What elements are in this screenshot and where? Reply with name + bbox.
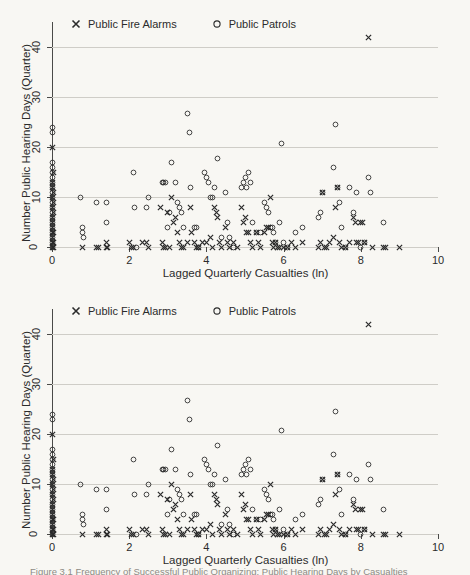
data-point-patrol [342, 531, 349, 538]
data-point-patrol [184, 110, 191, 117]
data-point-patrol [270, 229, 277, 236]
x-axis-title: Lagged Quarterly Casualties (ln) [52, 554, 439, 566]
data-point-fire-alarm [145, 531, 152, 538]
cross-marker-icon [70, 18, 82, 30]
data-point-patrol [222, 476, 229, 483]
data-point-patrol [292, 229, 299, 236]
data-point-patrol [276, 506, 283, 513]
x-axis-title: Lagged Quarterly Casualties (ln) [52, 267, 439, 279]
data-point-patrol [278, 140, 285, 147]
data-point-patrol [80, 521, 87, 528]
data-point-patrol [317, 496, 324, 503]
data-point-fire-alarm [396, 244, 403, 251]
x-axis-tick-label: 10 [432, 541, 444, 553]
data-point-fire-alarm [95, 244, 102, 251]
legend-label-patrols: Public Patrols [229, 305, 296, 317]
data-point-patrol [338, 224, 345, 231]
data-point-patrol [257, 516, 264, 523]
data-point-patrol [180, 511, 187, 518]
data-point-patrol [211, 184, 218, 191]
data-point-patrol [249, 219, 256, 226]
data-point-fire-alarm [187, 491, 194, 498]
data-point-patrol [247, 466, 254, 473]
data-point-patrol [380, 506, 387, 513]
x-axis-tick-label: 8 [358, 541, 364, 553]
data-point-patrol [166, 209, 173, 216]
x-axis-tick [438, 534, 439, 539]
y-axis-tick-label: 30 [30, 91, 42, 103]
data-point-patrol [278, 427, 285, 434]
data-point-patrol [284, 531, 291, 538]
x-axis-tick-label: 4 [203, 254, 209, 266]
x-axis-tick-label: 0 [49, 254, 55, 266]
data-point-patrol [365, 174, 372, 181]
data-point-patrol [209, 481, 216, 488]
data-point-patrol [292, 516, 299, 523]
gridline-y [52, 334, 438, 335]
data-point-patrol [330, 164, 337, 171]
data-point-patrol [299, 511, 306, 518]
data-point-fire-alarm [238, 204, 245, 211]
data-point-patrol [133, 244, 140, 251]
data-point-fire-alarm [79, 244, 86, 251]
data-point-patrol [334, 471, 341, 478]
data-point-fire-alarm [257, 531, 264, 538]
data-point-fire-alarm [157, 204, 164, 211]
data-point-patrol [187, 471, 194, 478]
circle-marker-icon [211, 305, 223, 317]
data-point-patrol [168, 159, 175, 166]
data-point-patrol [334, 184, 341, 191]
data-point-patrol [332, 408, 339, 415]
data-point-patrol [299, 224, 306, 231]
data-point-patrol [49, 129, 56, 136]
data-point-patrol [143, 204, 150, 211]
data-point-patrol [214, 155, 221, 162]
data-point-patrol [93, 199, 100, 206]
data-point-patrol [317, 209, 324, 216]
data-point-patrol [224, 506, 231, 513]
data-point-patrol [230, 531, 237, 538]
legend-entry-fire-alarms: Public Fire Alarms [70, 18, 177, 30]
data-point-patrol [336, 486, 343, 493]
data-point-fire-alarm [214, 214, 221, 221]
data-point-fire-alarm [95, 531, 102, 538]
legend-top: Public Fire Alarms Public Patrols [70, 18, 296, 30]
data-point-fire-alarm [49, 144, 56, 151]
y-axis-tick-label: 30 [30, 378, 42, 390]
data-point-patrol [77, 481, 84, 488]
legend-label-fire-alarms: Public Fire Alarms [88, 305, 177, 317]
data-point-fire-alarm [209, 531, 216, 538]
data-point-fire-alarm [369, 531, 376, 538]
data-point-patrol [284, 244, 291, 251]
data-point-fire-alarm [292, 244, 299, 251]
data-point-fire-alarm [207, 234, 214, 241]
data-point-patrol [249, 506, 256, 513]
data-point-patrol [353, 189, 360, 196]
data-point-patrol [130, 456, 137, 463]
x-axis-tick-label: 4 [203, 541, 209, 553]
data-point-patrol [162, 466, 169, 473]
data-point-fire-alarm [365, 321, 372, 328]
data-point-fire-alarm [359, 506, 366, 513]
data-point-patrol [226, 521, 233, 528]
data-point-patrol [180, 224, 187, 231]
data-point-fire-alarm [166, 244, 173, 251]
data-point-patrol [342, 244, 349, 251]
data-point-patrol [350, 496, 357, 503]
data-point-patrol [103, 199, 110, 206]
data-point-fire-alarm [184, 526, 191, 533]
data-point-patrol [131, 491, 138, 498]
data-point-patrol [332, 121, 339, 128]
data-point-fire-alarm [382, 244, 389, 251]
data-point-fire-alarm [245, 516, 252, 523]
data-point-patrol [272, 526, 279, 533]
data-point-patrol [143, 491, 150, 498]
y-axis-tick-label: 0 [27, 531, 39, 537]
data-point-patrol [168, 446, 175, 453]
data-point-fire-alarm [104, 244, 111, 251]
data-point-patrol [338, 511, 345, 518]
data-point-patrol [218, 234, 225, 241]
circle-marker-icon [211, 18, 223, 30]
y-axis-tick-label: 0 [27, 244, 39, 250]
data-point-fire-alarm [299, 526, 306, 533]
